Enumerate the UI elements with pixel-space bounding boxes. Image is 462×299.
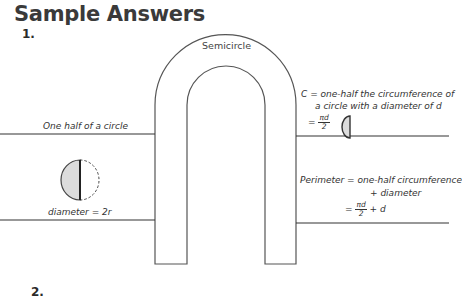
- small-half-circle-icon: [342, 116, 350, 138]
- one-half-circle-label: One half of a circle: [43, 121, 128, 131]
- eq-sign: =: [308, 117, 316, 127]
- fraction-pi-d-over-2: πd 2: [355, 201, 366, 218]
- perimeter-line1: Perimeter = one-half circumference: [300, 175, 462, 185]
- perimeter-line2: + diameter: [370, 188, 421, 198]
- circumference-line1: C = one-half the circumference of: [301, 89, 454, 99]
- frac-denominator: 2: [318, 123, 329, 131]
- semicircle-label: Semicircle: [202, 40, 251, 51]
- plus-d: + d: [370, 204, 386, 214]
- arch-outline: [155, 35, 296, 264]
- frac-denominator: 2: [355, 210, 366, 218]
- circumference-formula: = πd 2: [308, 114, 330, 131]
- eq-sign: =: [345, 204, 353, 214]
- circumference-line2: a circle with a diameter of d: [315, 101, 442, 111]
- fraction-pi-d-over-2: πd 2: [318, 114, 329, 131]
- half-circle-icon: [61, 160, 99, 200]
- diameter-label: diameter = 2r: [48, 207, 112, 217]
- perimeter-formula: = πd 2 + d: [345, 201, 386, 218]
